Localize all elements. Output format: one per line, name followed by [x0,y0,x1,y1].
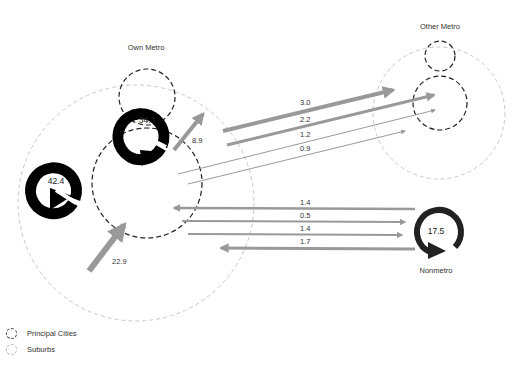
suburbs-swatch-icon [6,344,17,355]
legend-item-principal-cities: Principal Cities [6,325,77,341]
to-other-metro-arrow-4 [188,131,405,184]
to-other-metro-arrow-2 [227,95,434,145]
suburb-internal-ring-icon [31,168,77,214]
suburb-internal-value: 42.4 [48,176,65,186]
principal-to-suburb-value: 8.9 [192,136,202,145]
nonmetro-label: Nonmetro [420,266,453,275]
other-metro-principal-small-circle [425,41,455,71]
other-metro-principal-large-circle [413,76,467,130]
nonmetro-internal-value: 17.5 [428,226,445,236]
nonmetro-exchange-arrow-1 [174,208,415,209]
to-other-metro-value-3: 1.2 [300,130,310,139]
other-metro-label: Other Metro [420,22,460,31]
to-other-metro-value-4: 0.9 [300,144,310,153]
legend-label: Principal Cities [27,329,77,338]
nonmetro-exchange-value-2: 0.5 [300,211,310,220]
nonmetro-exchange-value-4: 1.7 [300,237,310,246]
legend: Principal Cities Suburbs [6,325,77,357]
nonmetro-exchange-arrow-4 [221,248,415,249]
to-other-metro-value-2: 2.2 [300,115,310,124]
principal-internal-value: 34.3 [139,115,156,125]
nonmetro-exchange-arrow-2 [182,221,405,222]
other-metro-suburbs-circle [373,47,505,179]
nonmetro-exchange-value-3: 1.4 [300,224,310,233]
to-other-metro-value-1: 3.0 [300,98,310,107]
legend-label: Suburbs [27,345,55,354]
suburb-to-principal-value: 22.9 [112,257,127,266]
nonmetro-exchange-value-1: 1.4 [300,198,310,207]
own-metro-label: Own Metro [128,43,165,52]
legend-item-suburbs: Suburbs [6,341,77,357]
flow-diagram: Own Metro 34.3 42.4 8.9 22.9 Other Metro… [0,0,525,373]
principal-cities-swatch-icon [6,328,17,339]
nonmetro-exchange-arrow-3 [188,234,402,235]
